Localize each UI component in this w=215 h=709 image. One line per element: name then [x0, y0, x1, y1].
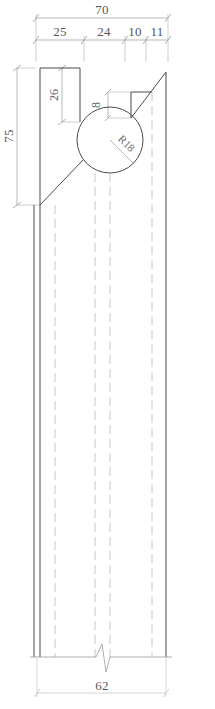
- left-height-dimension-group: 75: [1, 65, 40, 208]
- break-line-zigzag: [96, 644, 110, 672]
- inner-height-dimension-group: 26: [47, 65, 80, 125]
- dim-label-segment-4: 11: [150, 24, 163, 39]
- technical-drawing-canvas: 70 25 24 10 11: [0, 0, 215, 709]
- dim-label-segment-1: 25: [53, 24, 67, 39]
- cad-drawing-svg: 70 25 24 10 11: [0, 0, 215, 709]
- dim-label-inner-height: 26: [47, 89, 61, 101]
- dim-extension-height: [17, 68, 40, 205]
- dim-label-notch: 8: [89, 102, 103, 108]
- body-outline: [34, 200, 166, 657]
- top-dimension-group: 70 25 24 10 11: [33, 2, 171, 62]
- dim-extension-notch: [108, 92, 131, 118]
- dim-label-segment-3: 10: [128, 24, 142, 39]
- dim-label-bore-radius: R18: [116, 132, 138, 154]
- break-line-group: [30, 644, 172, 672]
- notch-dimension-group: 8: [89, 89, 131, 121]
- dim-label-overall-width: 70: [95, 2, 109, 17]
- part-outline-upper: [40, 68, 166, 205]
- hidden-centerlines: [55, 92, 152, 657]
- dim-label-bottom-width: 62: [95, 678, 109, 693]
- dim-label-overall-height: 75: [1, 129, 16, 143]
- bottom-dimension-group: 62: [34, 657, 169, 697]
- dim-label-segment-2: 24: [97, 24, 111, 39]
